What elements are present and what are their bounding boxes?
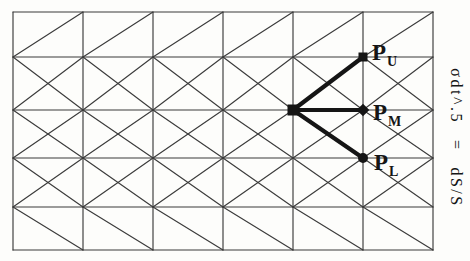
grid-diagonal-rising xyxy=(223,12,293,57)
grid-diagonal-rising xyxy=(293,12,363,57)
node-label-pm-main: P xyxy=(373,100,387,125)
grid-diagonal-rising xyxy=(153,12,223,57)
node-marker-pl xyxy=(358,153,368,163)
lattice-svg xyxy=(0,0,470,261)
grid-diagonal-falling xyxy=(223,207,293,250)
node-label-pl-main: P xyxy=(374,150,388,175)
node-label-pu: PU xyxy=(372,41,397,64)
node-label-pl-sub: L xyxy=(389,164,398,179)
grid-diagonal-falling xyxy=(13,207,83,250)
node-marker-pm xyxy=(357,104,370,117)
lattice-figure: PU PM PL σdt^.5 = dS/S xyxy=(0,0,470,261)
grid-diagonal-falling xyxy=(83,207,153,250)
grid-diagonal-falling xyxy=(363,207,433,250)
annotation-rhs: dS/S xyxy=(448,167,464,207)
grid-diagonal-falling xyxy=(293,207,363,250)
node-label-pm: PM xyxy=(373,101,401,124)
node-label-pu-sub: U xyxy=(387,54,397,69)
node-label-pl: PL xyxy=(374,151,398,174)
grid-diagonal-rising xyxy=(83,12,153,57)
grid-diagonal-falling xyxy=(153,207,223,250)
volatility-annotation: σdt^.5 = dS/S xyxy=(448,68,464,207)
annotation-equals-sign: = xyxy=(448,140,464,152)
annotation-lhs: σdt^.5 xyxy=(448,68,464,124)
node-label-pu-main: P xyxy=(372,40,386,65)
node-marker-pu xyxy=(359,53,368,62)
grid-diagonal-rising xyxy=(13,12,83,57)
node-marker-root xyxy=(288,105,299,116)
node-label-pm-sub: M xyxy=(388,114,401,129)
